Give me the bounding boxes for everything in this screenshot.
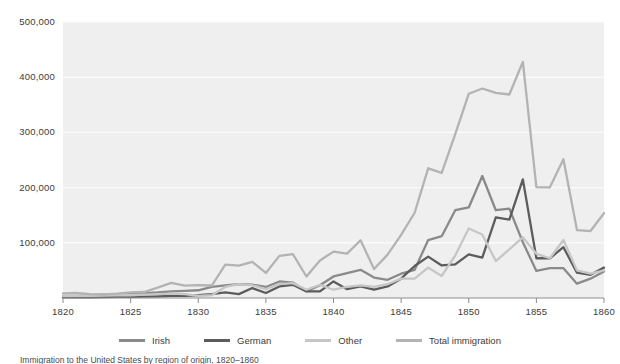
immigration-line-chart: 100,000200,000300,000400,000500,000 1820… xyxy=(0,0,620,364)
x-axis-ticks xyxy=(63,298,604,303)
y-axis-label-400000: 400,000 xyxy=(0,71,55,82)
legend-item-other[interactable]: Other xyxy=(305,335,362,346)
x-axis-label-1855: 1855 xyxy=(513,306,559,317)
y-axis-label-500000: 500,000 xyxy=(0,16,55,27)
x-axis-label-1820: 1820 xyxy=(40,306,86,317)
legend-label: Irish xyxy=(152,335,170,346)
y-axis-label-200000: 200,000 xyxy=(0,182,55,193)
legend-swatch-icon xyxy=(305,339,331,342)
figure-caption: Immigration to the United States by regi… xyxy=(20,355,259,364)
legend-item-total-immigration[interactable]: Total immigration xyxy=(396,335,501,346)
y-axis-label-100000: 100,000 xyxy=(0,237,55,248)
x-axis-label-1845: 1845 xyxy=(378,306,424,317)
legend-swatch-icon xyxy=(119,339,145,342)
y-axis-label-300000: 300,000 xyxy=(0,126,55,137)
x-axis-label-1830: 1830 xyxy=(175,306,221,317)
x-axis-label-1840: 1840 xyxy=(311,306,357,317)
legend-label: German xyxy=(237,335,271,346)
legend-swatch-icon xyxy=(396,339,422,342)
legend-label: Other xyxy=(338,335,362,346)
legend-swatch-icon xyxy=(204,339,230,342)
legend-label: Total immigration xyxy=(429,335,501,346)
x-axis-label-1860: 1860 xyxy=(581,306,620,317)
x-axis-label-1850: 1850 xyxy=(446,306,492,317)
legend-item-german[interactable]: German xyxy=(204,335,271,346)
chart-legend: IrishGermanOtherTotal immigration xyxy=(0,330,620,350)
x-axis-label-1825: 1825 xyxy=(108,306,154,317)
x-axis-label-1835: 1835 xyxy=(243,306,289,317)
legend-item-irish[interactable]: Irish xyxy=(119,335,170,346)
